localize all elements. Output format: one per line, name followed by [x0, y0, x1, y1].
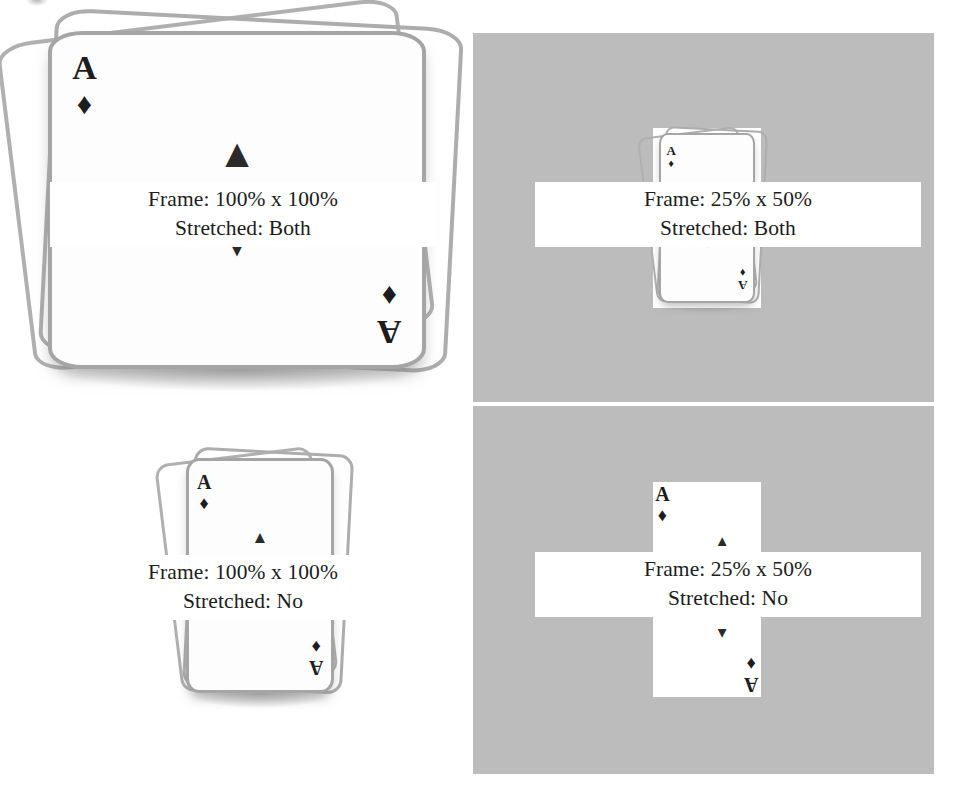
diamond-pip-icon-inverted: ♦ [309, 638, 323, 656]
card-corner-top-left: A ♦ [655, 484, 669, 524]
scan-artifact-fleck [26, 0, 48, 6]
card-rank-glyph-inverted: A [744, 675, 758, 695]
caption-stretched-line: Stretched: No [58, 587, 428, 616]
cell-bottom-left: A ♦ ▲ ▲ A ♦ Frame: 100% x 100% Stretched… [0, 400, 470, 805]
figure-root: { "figure": { "description": "Four rende… [0, 0, 970, 805]
card-rank-glyph-inverted: A [738, 279, 747, 292]
diamond-pip-icon: ♦ [72, 89, 97, 119]
card-rank-glyph: A [666, 144, 675, 157]
card-corner-bottom-right: A ♦ [744, 655, 758, 695]
caption-stretched-line: Stretched: Both [58, 214, 428, 243]
caption-stretched-line: Stretched: Both [543, 214, 913, 243]
caption-top-right: Frame: 25% x 50% Stretched: Both [535, 182, 921, 247]
caption-bottom-left: Frame: 100% x 100% Stretched: No [50, 555, 436, 620]
card-corner-top-left: A ♦ [197, 472, 211, 512]
card-corner-top-left: A ♦ [666, 144, 675, 169]
caption-frame-line: Frame: 100% x 100% [58, 558, 428, 587]
diamond-pip-icon: ♦ [197, 494, 211, 512]
diamond-pip-icon: ♦ [666, 158, 675, 169]
diamond-pip-icon: ♦ [655, 506, 669, 524]
cell-top-right: A ♦ ▲ ▲ A ♦ Frame: 25% x 50% Stretched: … [470, 0, 970, 402]
card-corner-bottom-right: A ♦ [309, 638, 323, 678]
center-pip-top-icon: ▲ [715, 534, 730, 549]
caption-stretched-line: Stretched: No [543, 584, 913, 613]
caption-frame-line: Frame: 25% x 50% [543, 555, 913, 584]
cell-top-left: A ♦ ▲ ▲ A ♦ Frame: 100% x 100% Stretched… [0, 0, 470, 400]
card-corner-bottom-right: A ♦ [738, 267, 747, 292]
center-pip-top-icon: ▲ [252, 529, 269, 546]
cell-bottom-right: A ♦ ▲ ▲ A ♦ Frame: 25% x 50% Stretched: … [470, 402, 970, 805]
diamond-pip-icon-inverted: ♦ [744, 655, 758, 673]
card-rank-glyph: A [72, 51, 97, 85]
card-rank-glyph: A [655, 484, 669, 504]
center-pip-bottom-icon: ▲ [715, 626, 730, 641]
card-rank-glyph-inverted: A [309, 658, 323, 678]
card-rank-glyph-inverted: A [377, 315, 402, 349]
center-pip-top-icon: ▲ [217, 134, 257, 174]
card-rank-glyph: A [197, 472, 211, 492]
diamond-pip-icon-inverted: ♦ [738, 267, 747, 278]
card-corner-top-left: A ♦ [72, 51, 97, 119]
caption-top-left: Frame: 100% x 100% Stretched: Both [50, 182, 436, 247]
caption-frame-line: Frame: 100% x 100% [58, 185, 428, 214]
caption-frame-line: Frame: 25% x 50% [543, 185, 913, 214]
diamond-pip-icon-inverted: ♦ [377, 281, 402, 311]
caption-bottom-right: Frame: 25% x 50% Stretched: No [535, 552, 921, 617]
card-corner-bottom-right: A ♦ [377, 281, 402, 349]
